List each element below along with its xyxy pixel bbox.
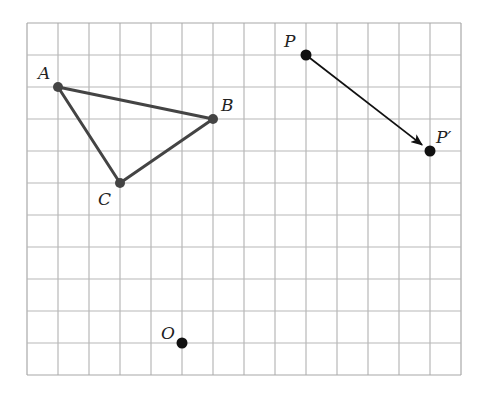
vertex-b <box>208 114 218 124</box>
point-o-label: O <box>161 323 175 343</box>
grid <box>27 23 461 375</box>
point-p-label: P <box>283 31 296 51</box>
point-o <box>177 338 188 349</box>
translation-arrow <box>306 55 422 145</box>
point-p-prime-label: P′ <box>435 127 451 147</box>
vertex-b-label: B <box>220 95 234 115</box>
point-p <box>301 50 312 61</box>
translation-vector-p: PP′ <box>283 31 451 157</box>
vertex-c <box>115 178 125 188</box>
point-o: O <box>161 323 188 349</box>
triangle-edges <box>58 87 213 183</box>
triangle-abc: ABC <box>36 63 234 209</box>
vertex-a <box>53 82 63 92</box>
vertex-c-label: C <box>98 189 111 209</box>
vertex-a-label: A <box>36 63 50 83</box>
transformation-diagram: ABC PP′ O <box>0 0 486 396</box>
point-p-prime <box>425 146 436 157</box>
